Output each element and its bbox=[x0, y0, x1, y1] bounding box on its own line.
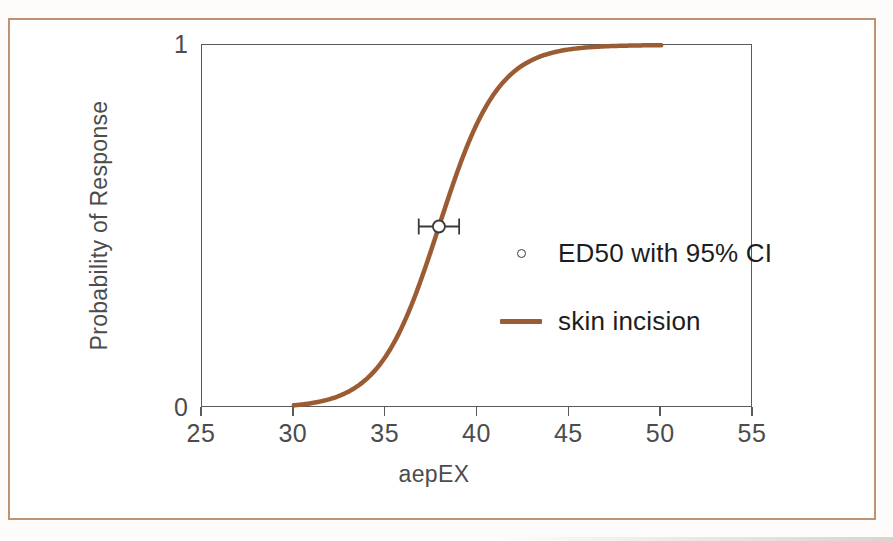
line-swatch-icon bbox=[498, 319, 544, 324]
legend-item-skin-incision: skin incision bbox=[498, 306, 701, 337]
plot-area bbox=[201, 44, 752, 407]
x-tick-label-55: 55 bbox=[738, 419, 767, 448]
y-axis-label-text: Probability of Response bbox=[86, 101, 113, 351]
x-tick-label-35: 35 bbox=[370, 419, 399, 448]
x-tick-40 bbox=[476, 407, 477, 416]
legend-label-ed50: ED50 with 95% CI bbox=[558, 238, 772, 269]
plot-svg bbox=[202, 45, 753, 408]
y-axis-label: Probability of Response bbox=[84, 44, 114, 407]
y-tick-label-1: 1 bbox=[148, 30, 188, 59]
x-axis-label-text: aepEX bbox=[398, 461, 469, 487]
x-tick-label-40: 40 bbox=[462, 419, 491, 448]
x-tick-label-50: 50 bbox=[646, 419, 675, 448]
ed50-errorbar-marker bbox=[419, 219, 459, 235]
x-tick-30 bbox=[292, 407, 293, 416]
legend-label-skin-incision: skin incision bbox=[558, 306, 701, 337]
series-line-skin-incision bbox=[294, 45, 661, 405]
x-tick-label-45: 45 bbox=[554, 419, 583, 448]
x-tick-45 bbox=[568, 407, 569, 416]
x-tick-25 bbox=[200, 407, 201, 416]
open-circle-icon bbox=[498, 249, 544, 258]
figure-container: 1 0 Probability of Response 253035404550… bbox=[0, 0, 893, 541]
ed50-point-marker bbox=[433, 221, 445, 233]
legend-item-ed50: ED50 with 95% CI bbox=[498, 238, 772, 269]
x-tick-label-25: 25 bbox=[187, 419, 216, 448]
x-tick-label-30: 30 bbox=[278, 419, 307, 448]
y-tick-label-0: 0 bbox=[148, 393, 188, 422]
scan-edge-artifact bbox=[0, 537, 893, 541]
x-axis-label: aepEX bbox=[0, 461, 893, 488]
x-tick-55 bbox=[751, 407, 752, 416]
x-tick-35 bbox=[384, 407, 385, 416]
x-tick-50 bbox=[659, 407, 660, 416]
